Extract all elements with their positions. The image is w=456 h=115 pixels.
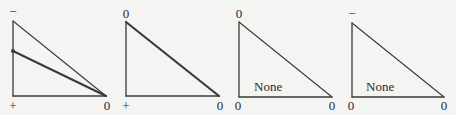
hypotenuse-edge [126,22,219,96]
vertex-label-top: 0 [123,6,130,21]
triangle-panel-2: 0+0 [122,6,223,113]
vertex-label-right: 0 [217,98,224,113]
vertex-label-right: 0 [104,98,111,113]
point-marker [11,49,15,53]
hypotenuse-edge [239,22,332,97]
sign-diagram-figure: −+00+0000None−00None [0,0,456,115]
triangle-panel-3: 000None [235,6,336,113]
vertex-label-right: 0 [329,98,336,113]
vertex-label-bottom-left: + [122,98,129,113]
vertex-label-top: − [348,6,355,21]
vertex-label-bottom-left: + [9,98,16,113]
none-label: None [366,79,394,94]
triangle-panel-4: −00None [348,6,448,113]
triangle-panels: −+00+0000None−00None [9,4,447,113]
vertex-label-top: − [9,4,16,19]
triangle-panel-1: −+0 [9,4,110,113]
vertex-label-bottom-left: 0 [235,98,242,113]
vertex-label-bottom-left: 0 [348,98,355,113]
none-label: None [254,79,282,94]
vertex-label-top: 0 [236,6,243,21]
interior-line [13,51,106,96]
vertex-label-right: 0 [441,98,448,113]
